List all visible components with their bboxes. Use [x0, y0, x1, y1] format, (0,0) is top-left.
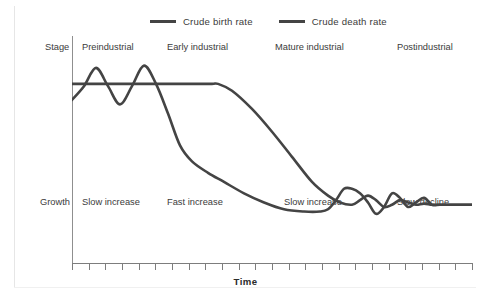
x-axis-tick: [272, 263, 273, 270]
figure-bottom-border: [14, 287, 476, 288]
x-axis-tick: [422, 263, 423, 270]
x-axis-tick: [355, 263, 356, 270]
stage-row-label: Stage: [45, 42, 69, 52]
figure-left-border: [14, 6, 15, 288]
x-axis-tick: [239, 263, 240, 270]
x-axis-tick: [472, 263, 473, 270]
x-axis-tick: [155, 263, 156, 270]
x-axis-tick: [322, 263, 323, 270]
x-axis-tick: [455, 263, 456, 270]
x-axis-tick: [339, 263, 340, 270]
x-axis-tick: [289, 263, 290, 270]
x-axis-tick: [389, 263, 390, 270]
line-swatch-icon: [150, 20, 176, 23]
crude-birth-rate-line: [72, 83, 472, 207]
line-swatch-icon: [279, 20, 305, 23]
legend-label-crude-death-rate: Crude death rate: [312, 16, 387, 27]
x-axis-tick: [372, 263, 373, 270]
crude-death-rate-line: [72, 66, 472, 214]
x-axis-tick: [122, 263, 123, 270]
x-axis-tick: [305, 263, 306, 270]
x-axis-title: Time: [0, 276, 491, 287]
x-axis-tick: [72, 263, 73, 270]
x-axis-tick: [89, 263, 90, 270]
chart-legend: Crude birth rate Crude death rate: [150, 13, 390, 29]
x-axis-tick: [139, 263, 140, 270]
rate-curves: [72, 36, 472, 264]
legend-item-crude-birth-rate: Crude birth rate: [150, 16, 253, 27]
x-axis-tick: [222, 263, 223, 270]
x-axis-tick: [439, 263, 440, 270]
x-axis-tick: [205, 263, 206, 270]
plot-area: Preindustrial Early industrial Mature in…: [72, 36, 472, 264]
x-axis-tick: [255, 263, 256, 270]
growth-row-label: Growth: [40, 197, 70, 207]
x-axis-tick: [189, 263, 190, 270]
x-axis-tick: [105, 263, 106, 270]
legend-label-crude-birth-rate: Crude birth rate: [183, 16, 253, 27]
legend-item-crude-death-rate: Crude death rate: [279, 16, 387, 27]
x-axis-tick: [405, 263, 406, 270]
x-axis-tick: [172, 263, 173, 270]
demographic-transition-figure: Crude birth rate Crude death rate Stage …: [0, 0, 491, 299]
